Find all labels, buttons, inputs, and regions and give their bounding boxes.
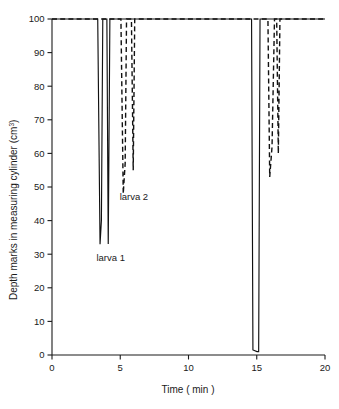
x-tick-label-10: 10 — [183, 362, 194, 373]
x-tick-label-0: 0 — [49, 362, 54, 373]
annotation-larva-1: larva 1 — [96, 252, 125, 263]
y-axis-tick-labels: 0102030405060708090100 — [29, 13, 45, 360]
series-annotations: larva 1larva 2 — [96, 191, 148, 262]
depth-vs-time-line-chart: 0102030405060708090100 05101520 larva 1l… — [0, 0, 339, 409]
annotation-larva-2: larva 2 — [120, 191, 149, 202]
y-tick-label-40: 40 — [34, 215, 45, 226]
x-tick-label-5: 5 — [118, 362, 123, 373]
x-axis-title: Time ( min ) — [162, 384, 215, 395]
series-line-larva-2 — [52, 19, 325, 194]
y-tick-label-0: 0 — [39, 349, 44, 360]
data-series-group — [52, 19, 325, 352]
y-tick-label-20: 20 — [34, 282, 45, 293]
y-axis-ticks — [48, 19, 53, 355]
y-tick-label-50: 50 — [34, 181, 45, 192]
y-tick-label-10: 10 — [34, 316, 45, 327]
chart-figure: 0102030405060708090100 05101520 larva 1l… — [0, 0, 339, 409]
y-tick-label-80: 80 — [34, 81, 45, 92]
x-tick-label-20: 20 — [320, 362, 331, 373]
y-axis-title-main: Depth marks in measuring cylinder (cm — [8, 127, 19, 300]
y-tick-label-90: 90 — [34, 47, 45, 58]
y-tick-label-60: 60 — [34, 148, 45, 159]
x-axis-ticks — [52, 355, 325, 360]
x-tick-label-15: 15 — [251, 362, 262, 373]
y-axis-title: Depth marks in measuring cylinder (cm3) — [8, 120, 20, 300]
y-axis-title-group: Depth marks in measuring cylinder (cm3) — [8, 120, 20, 300]
y-tick-label-70: 70 — [34, 114, 45, 125]
y-axis-title-tail: ) — [8, 120, 19, 123]
x-axis-tick-labels: 05101520 — [49, 362, 330, 373]
y-tick-label-100: 100 — [29, 13, 45, 24]
y-tick-label-30: 30 — [34, 249, 45, 260]
series-line-larva-1 — [52, 19, 325, 352]
axes-group — [52, 19, 325, 355]
